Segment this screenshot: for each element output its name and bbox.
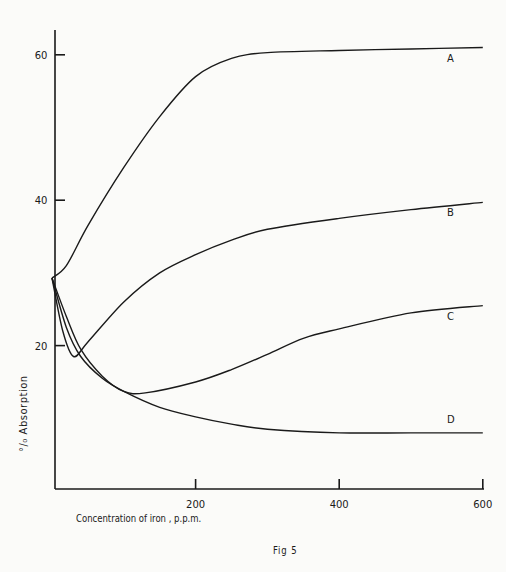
series-label-c: C (447, 311, 454, 322)
y-tick-label: 20 (35, 341, 48, 352)
chart-curves (52, 48, 483, 434)
series-labels: ABCD (447, 53, 455, 425)
curve-c (52, 278, 483, 394)
curve-d (52, 278, 483, 433)
x-tick-label: 200 (186, 499, 205, 510)
curve-b (52, 202, 483, 356)
chart-canvas: 204060200400600 ABCD (0, 0, 506, 572)
chart-axes (55, 30, 484, 489)
x-axis-label: Concentration of iron , p.p.m. (76, 513, 201, 524)
series-label-a: A (447, 53, 454, 64)
y-tick-label: 60 (35, 50, 48, 61)
y-tick-label: 40 (35, 195, 48, 206)
tick-labels: 204060200400600 (35, 50, 493, 510)
x-tick-label: 600 (473, 499, 492, 510)
series-label-d: D (447, 414, 455, 425)
figure-caption: Fig 5 (273, 545, 297, 556)
y-axis-label: °/₀ Absorption (18, 375, 29, 452)
series-label-b: B (447, 207, 454, 218)
x-tick-label: 400 (330, 499, 349, 510)
curve-a (52, 48, 483, 278)
axis-ticks (55, 55, 483, 489)
